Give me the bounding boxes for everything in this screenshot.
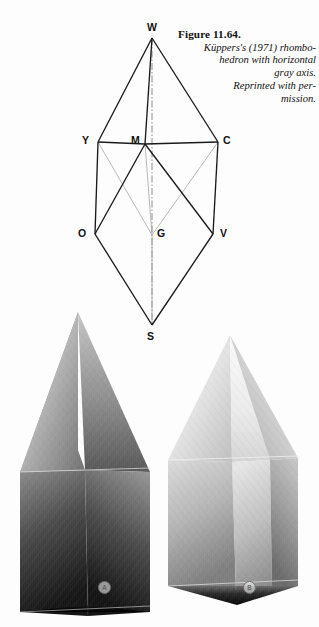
- solid-label-b: B: [243, 581, 256, 594]
- solid-label-a: A: [98, 581, 111, 594]
- solid-label-group: AB: [0, 0, 319, 627]
- figure-page: Figure 11.64. Küppers's (1971) rhombo- h…: [0, 0, 319, 627]
